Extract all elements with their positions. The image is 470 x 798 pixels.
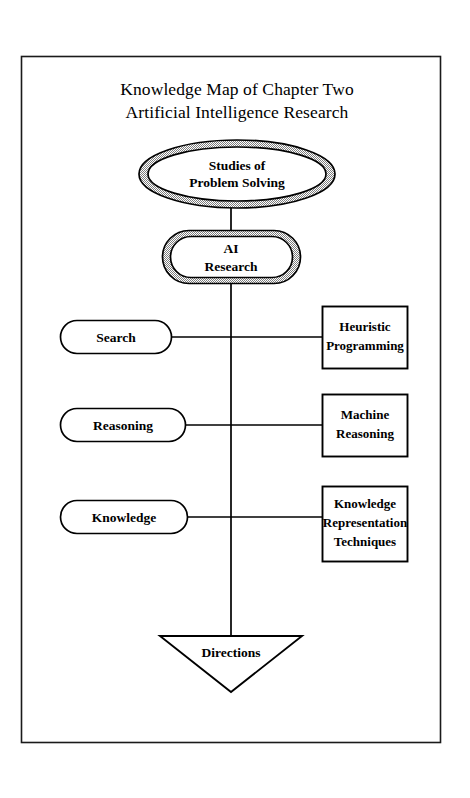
- root-ellipse-inner: [148, 147, 326, 201]
- heuristic-programming-line-1: Heuristic: [339, 319, 390, 334]
- search-label: Search: [96, 330, 136, 345]
- machine-reasoning-line-2: Reasoning: [336, 426, 394, 441]
- knowledge-representation-line-2: Representation: [323, 515, 408, 530]
- root-label-line-2: Problem Solving: [189, 175, 285, 190]
- diagram-canvas: Knowledge Map of Chapter Two Artificial …: [0, 0, 470, 798]
- node-knowledge-representation-techniques[interactable]: Knowledge Representation Techniques: [323, 487, 408, 562]
- knowledge-map-diagram: Knowledge Map of Chapter Two Artificial …: [0, 0, 470, 798]
- diagram-title-line-1: Knowledge Map of Chapter Two: [120, 79, 354, 99]
- heuristic-programming-line-2: Programming: [326, 338, 404, 353]
- main-label-line-2: Research: [205, 259, 258, 274]
- knowledge-representation-line-1: Knowledge: [334, 496, 396, 511]
- node-ai-research[interactable]: AI Research: [163, 231, 301, 284]
- node-directions[interactable]: Directions: [160, 636, 302, 692]
- node-heuristic-programming[interactable]: Heuristic Programming: [323, 307, 408, 369]
- node-studies-of-problem-solving[interactable]: Studies of Problem Solving: [139, 140, 335, 208]
- node-machine-reasoning[interactable]: Machine Reasoning: [323, 395, 408, 457]
- node-knowledge[interactable]: Knowledge: [61, 501, 188, 534]
- diagram-title-line-2: Artificial Intelligence Research: [126, 102, 349, 122]
- directions-label: Directions: [202, 645, 261, 660]
- knowledge-label: Knowledge: [92, 510, 157, 525]
- knowledge-representation-line-3: Techniques: [334, 534, 396, 549]
- main-label-line-1: AI: [223, 241, 238, 256]
- node-search[interactable]: Search: [61, 321, 172, 354]
- root-label-line-1: Studies of: [209, 158, 266, 173]
- node-reasoning[interactable]: Reasoning: [61, 409, 186, 442]
- reasoning-label: Reasoning: [93, 418, 153, 433]
- machine-reasoning-line-1: Machine: [341, 407, 390, 422]
